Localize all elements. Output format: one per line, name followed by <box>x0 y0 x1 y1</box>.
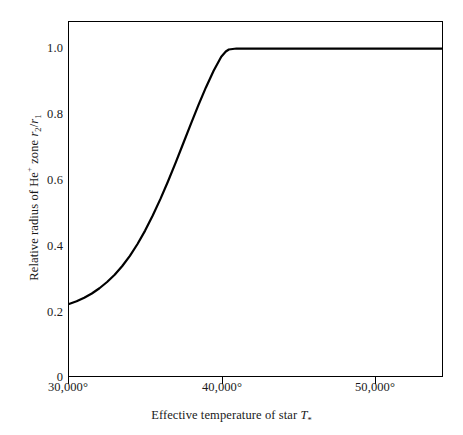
chart-svg <box>69 22 442 376</box>
y-axis-title-text2: zone <box>27 137 41 167</box>
y-tick-text: 0.8 <box>47 107 63 121</box>
y-tick-text: 0.6 <box>47 173 63 187</box>
x-axis-title-text: Effective temperature of star <box>151 408 300 422</box>
y-axis-title-denominator-sub: 1 <box>33 114 43 118</box>
x-axis-title-symbol-sub: * <box>307 415 311 425</box>
y-tick-text: 1.0 <box>47 41 63 55</box>
x-tick-text: 50,000° <box>355 380 395 394</box>
y-tick-text: 0.4 <box>47 239 63 253</box>
plot-area <box>68 21 443 377</box>
y-axis-title-denominator: r <box>27 119 41 124</box>
x-tick-label-30000: 30,000° <box>28 381 108 394</box>
y-axis-title-numerator: r <box>27 132 41 137</box>
y-axis-title-superscript: + <box>24 167 34 172</box>
y-tick-label-1.0: 1.0 <box>0 42 63 55</box>
y-axis-title-numerator-sub: 2 <box>33 127 43 131</box>
figure-container: 1.0 0.8 0.6 0.4 0.2 0 30,000° 40,000° 50… <box>0 0 463 435</box>
y-tick-text: 0.2 <box>47 305 63 319</box>
x-tick-label-40000: 40,000° <box>182 381 262 394</box>
data-series-line <box>69 49 442 304</box>
y-axis-title: Relative radius of He+ zone r2/r1 <box>27 98 42 298</box>
x-tick-text: 40,000° <box>202 380 242 394</box>
y-axis-title-slash: / <box>27 124 41 128</box>
x-tick-label-50000: 50,000° <box>335 381 415 394</box>
y-axis-title-text: Relative radius of He <box>27 172 41 281</box>
y-tick-label-0.2: 0.2 <box>0 306 63 319</box>
x-axis-title: Effective temperature of star T* <box>0 408 463 423</box>
x-tick-text: 30,000° <box>48 380 88 394</box>
